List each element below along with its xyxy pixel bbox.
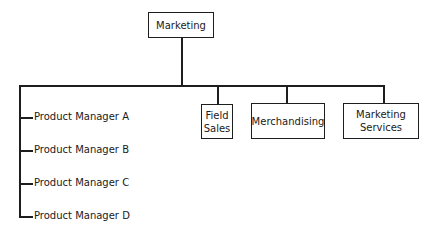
pm-d-branch [19,216,33,218]
product-manager-a: Product Manager A [34,111,129,123]
field-sales-label-line1: Field [205,109,228,122]
marketing-services-label-line1: Marketing [356,108,406,121]
marketing-label: Marketing [156,19,206,32]
merchandising-label: Merchandising [252,115,325,128]
pm-c-branch [19,183,33,185]
marketing-services-box: Marketing Services [343,103,419,139]
product-manager-b: Product Manager B [34,144,129,156]
field-sales-connector [217,85,219,104]
merchandising-box: Merchandising [251,103,325,139]
marketing-services-label-line2: Services [360,121,402,134]
pm-b-branch [19,150,33,152]
merchandising-connector [286,85,288,103]
main-horizontal-connector [19,85,384,87]
root-connector [181,38,183,85]
marketing-services-connector [383,85,385,103]
product-manager-d: Product Manager D [34,210,130,222]
pm-a-branch [19,117,33,119]
product-manager-c: Product Manager C [34,177,129,189]
field-sales-box: Field Sales [201,104,233,139]
marketing-box: Marketing [148,12,214,38]
field-sales-label-line2: Sales [204,122,231,135]
